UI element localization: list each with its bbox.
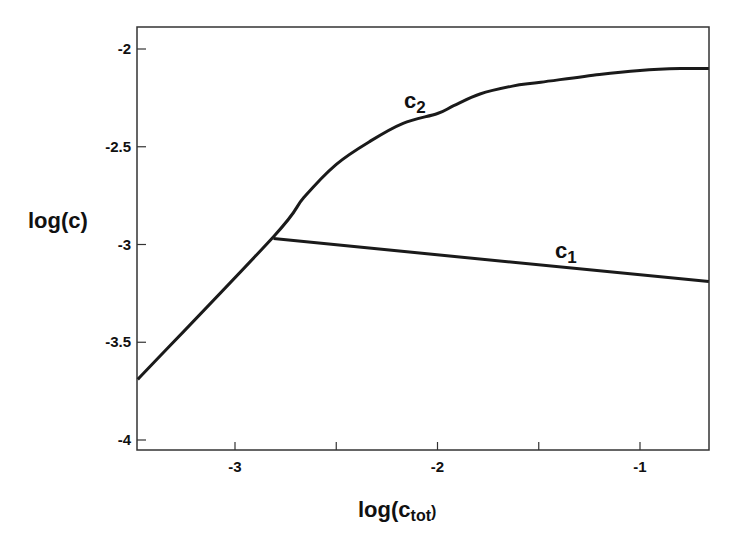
x-axis-title-close: ) (431, 503, 436, 520)
x-axis-title-main: log(c (358, 497, 411, 522)
y-axis-title: log(c) (28, 208, 88, 233)
x-tick-label: -3 (228, 458, 241, 475)
series-label-c1: c1 (555, 238, 577, 267)
c1-label-sub: 1 (567, 248, 576, 267)
c1-label-main: c (555, 238, 567, 263)
y-tick-label: -2.5 (105, 138, 131, 155)
y-tick-label: -2 (118, 40, 131, 57)
y-axis-ticks: -2-2.5-3-3.5-4 (105, 40, 146, 448)
x-axis-ticks: -3-2-1 (228, 442, 646, 475)
series-line-c1 (274, 239, 709, 282)
plot-frame (137, 27, 709, 450)
x-tick-label: -2 (431, 458, 444, 475)
x-axis-title: log(ctot) (358, 497, 436, 524)
y-tick-label: -3.5 (105, 333, 131, 350)
c2-label-main: c (404, 88, 416, 113)
chart: -2-2.5-3-3.5-4 -3-2-1 log(c) log(ctot) c… (0, 0, 737, 551)
y-tick-label: -3 (118, 236, 131, 253)
c2-label-sub: 2 (416, 98, 425, 117)
x-tick-label: -1 (633, 458, 646, 475)
series-label-c2: c2 (404, 88, 426, 117)
x-axis-title-sub: tot (411, 507, 432, 524)
y-tick-label: -4 (118, 431, 132, 448)
